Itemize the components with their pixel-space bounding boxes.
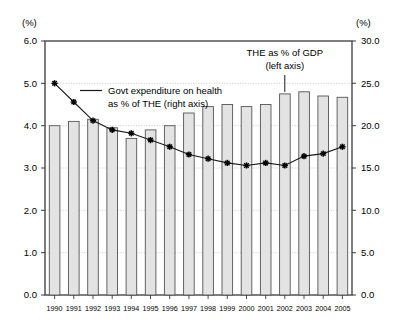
right-tick-0.0: 0.0 [361, 289, 374, 300]
x-tick-1994: 1994 [123, 304, 139, 313]
bar-2000 [241, 107, 252, 295]
right-tick-30.0: 30.0 [361, 35, 380, 46]
x-tick-2003: 2003 [296, 304, 312, 313]
x-tick-1996: 1996 [162, 304, 178, 313]
x-tick-1992: 1992 [85, 304, 101, 313]
right-tick-20.0: 20.0 [361, 120, 380, 131]
line-marker-1997 [186, 151, 192, 157]
x-tick-1997: 1997 [181, 304, 197, 313]
left-tick-4.0: 4.0 [24, 120, 37, 131]
bar-2003 [299, 92, 310, 295]
bar-1996 [164, 126, 175, 295]
line-marker-1990 [52, 80, 58, 86]
bar-2001 [260, 105, 271, 296]
x-tick-1998: 1998 [200, 304, 216, 313]
x-tick-1990: 1990 [47, 304, 63, 313]
line-marker-1992 [90, 118, 96, 124]
bar-1991 [69, 121, 80, 295]
bar-1997 [184, 113, 195, 295]
bar-2002 [280, 94, 291, 295]
bar-1994 [126, 138, 137, 295]
line-marker-2004 [320, 151, 326, 157]
bar-2005 [337, 97, 348, 295]
x-tick-1993: 1993 [104, 304, 120, 313]
right-tick-10.0: 10.0 [361, 205, 380, 216]
x-tick-1991: 1991 [66, 304, 82, 313]
line-marker-1999 [224, 160, 230, 166]
bar-2004 [318, 96, 329, 295]
left-tick-6.0: 6.0 [24, 35, 37, 46]
left-tick-2.0: 2.0 [24, 205, 37, 216]
line-marker-1998 [205, 156, 211, 162]
x-tick-2001: 2001 [258, 304, 274, 313]
legend-line-label-1: Govt expenditure on health [108, 85, 222, 96]
right-tick-5.0: 5.0 [361, 247, 374, 258]
right-tick-15.0: 15.0 [361, 162, 380, 173]
line-marker-1996 [167, 144, 173, 150]
callout-label-2: (left axis) [266, 60, 305, 71]
x-tick-2000: 2000 [239, 304, 255, 313]
line-marker-2002 [282, 162, 288, 168]
line-marker-1993 [109, 127, 115, 133]
bar-1995 [145, 130, 156, 295]
x-tick-2002: 2002 [277, 304, 293, 313]
x-tick-2004: 2004 [315, 304, 331, 313]
line-marker-2000 [243, 162, 249, 168]
line-marker-1991 [71, 99, 77, 105]
left-tick-1.0: 1.0 [24, 247, 37, 258]
bar-1993 [107, 128, 118, 295]
bar-1992 [88, 119, 99, 295]
line-marker-1994 [128, 130, 134, 136]
right-axis-unit-label: (%) [356, 17, 371, 28]
left-tick-5.0: 5.0 [24, 78, 37, 89]
bar-1998 [203, 107, 214, 295]
bar-1990 [49, 126, 60, 295]
x-tick-1999: 1999 [219, 304, 235, 313]
left-axis-unit-label: (%) [22, 17, 37, 28]
left-tick-0.0: 0.0 [24, 289, 37, 300]
x-tick-2005: 2005 [334, 304, 350, 313]
line-marker-2003 [301, 153, 307, 159]
chart-container: (%) (%) 0.01.02.03.04.05.06.0 0.05.010.0… [0, 0, 397, 331]
legend-line-label-2: as % of THE (right axis) [108, 98, 208, 109]
line-marker-2001 [263, 160, 269, 166]
bar-1999 [222, 105, 233, 296]
x-tick-1995: 1995 [143, 304, 159, 313]
right-tick-25.0: 25.0 [361, 78, 380, 89]
left-tick-3.0: 3.0 [24, 162, 37, 173]
line-marker-2005 [339, 144, 345, 150]
dual-axis-bar-line-chart: (%) (%) 0.01.02.03.04.05.06.0 0.05.010.0… [0, 0, 397, 331]
line-marker-1995 [147, 137, 153, 143]
callout-label-1: THE as % of GDP [247, 47, 324, 58]
